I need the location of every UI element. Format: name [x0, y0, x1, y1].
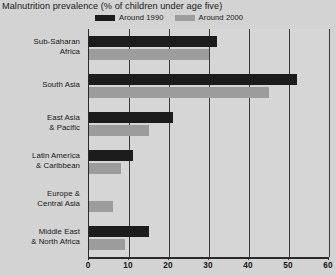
category-label-line: East Asia — [47, 113, 80, 123]
legend-item-around-2000: Around 2000 — [175, 13, 244, 22]
legend-swatch-around-1990 — [95, 15, 115, 21]
chart-figure: Malnutrition prevalence (% of children u… — [0, 0, 335, 276]
legend-label-around-1990: Around 1990 — [119, 13, 164, 22]
category-label-line: Africa — [34, 47, 81, 57]
plot-area — [88, 29, 328, 257]
category-label-line: Sub-Saharan — [34, 37, 81, 47]
x-tick-label-60: 60 — [323, 261, 332, 270]
gridlines — [89, 29, 328, 257]
category-label-line: Central Asia — [37, 199, 80, 209]
x-tick-mark-0 — [88, 257, 89, 260]
x-tick-label-50: 50 — [283, 261, 292, 270]
gridline-40 — [249, 29, 250, 257]
x-tick-mark-20 — [168, 257, 169, 260]
category-label-line: & North Africa — [31, 237, 80, 247]
chart-title: Malnutrition prevalence (% of children u… — [2, 0, 222, 12]
x-tick-label-10: 10 — [123, 261, 132, 270]
x-tick-label-30: 30 — [203, 261, 212, 270]
x-tick-mark-60 — [328, 257, 329, 260]
chart-legend: Around 1990 Around 2000 — [95, 13, 243, 22]
x-tick-mark-50 — [288, 257, 289, 260]
category-label-line: Middle East — [31, 227, 80, 237]
x-tick-mark-30 — [208, 257, 209, 260]
legend-item-around-1990: Around 1990 — [95, 13, 164, 22]
category-label-line: Latin America — [32, 151, 80, 161]
y-axis-category-labels: Sub-SaharanAfricaSouth AsiaEast Asia& Pa… — [0, 29, 84, 257]
category-label: Latin America& Caribbean — [32, 151, 80, 170]
category-label: East Asia& Pacific — [47, 113, 80, 132]
x-tick-mark-40 — [248, 257, 249, 260]
gridline-10 — [129, 29, 130, 257]
category-label-line: Europe & — [37, 189, 80, 199]
x-tick-label-20: 20 — [163, 261, 172, 270]
category-label: Middle East& North Africa — [31, 227, 80, 246]
category-label-line: & Caribbean — [32, 161, 80, 171]
gridline-60 — [329, 29, 330, 257]
x-tick-mark-10 — [128, 257, 129, 260]
category-label: Sub-SaharanAfrica — [34, 37, 81, 56]
x-tick-label-0: 0 — [86, 261, 91, 270]
legend-label-around-2000: Around 2000 — [199, 13, 244, 22]
x-tick-label-40: 40 — [243, 261, 252, 270]
category-label-line: & Pacific — [47, 123, 80, 133]
gridline-30 — [209, 29, 210, 257]
category-label: South Asia — [42, 80, 80, 90]
category-label-line: South Asia — [42, 80, 80, 90]
legend-swatch-around-2000 — [175, 15, 195, 21]
gridline-20 — [169, 29, 170, 257]
gridline-50 — [289, 29, 290, 257]
category-label: Europe &Central Asia — [37, 189, 80, 208]
